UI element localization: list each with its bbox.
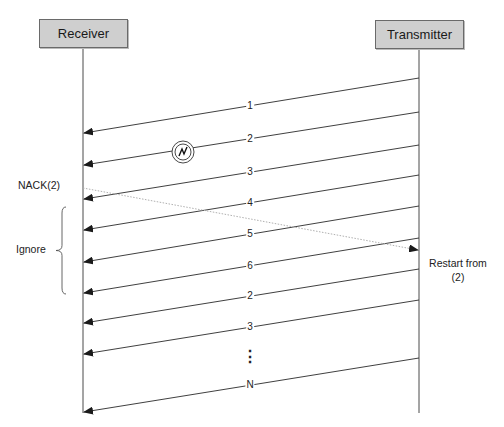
message-label: 3: [246, 167, 254, 177]
message-label: 5: [246, 229, 254, 239]
transmitter-box: Transmitter: [375, 20, 464, 49]
receiver-label: Receiver: [58, 26, 109, 41]
ignore-label: Ignore: [16, 244, 46, 255]
message-label: 1: [246, 101, 254, 111]
sequence-diagram: Receiver Transmitter 12345623N NACK(2) I…: [0, 0, 504, 427]
ignore-brace: [56, 207, 66, 294]
nack-label: NACK(2): [18, 180, 60, 191]
transmission-error-icon: [172, 141, 194, 163]
transmitter-label: Transmitter: [387, 27, 452, 42]
ellipsis-more-messages: ⋮: [241, 349, 259, 365]
curly-brace: [56, 207, 66, 294]
message-label: 6: [246, 261, 254, 271]
message-label: 2: [246, 291, 254, 301]
message-label: 2: [246, 134, 254, 144]
restart-note: Restart from (2): [427, 258, 489, 282]
message-label: 4: [246, 198, 254, 208]
receiver-box: Receiver: [39, 19, 128, 48]
restart-note-line2: (2): [427, 272, 489, 283]
restart-note-line1: Restart from: [427, 258, 489, 269]
message-label: 3: [246, 322, 254, 332]
message-label: N: [245, 380, 254, 390]
